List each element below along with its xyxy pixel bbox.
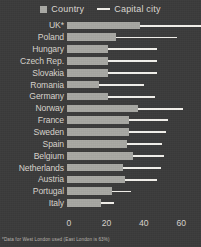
- category-label: France: [0, 116, 67, 125]
- bar-country: [67, 93, 108, 101]
- bar-country: [67, 33, 116, 41]
- chart-row: UK*: [0, 20, 201, 31]
- chart-footnote: *Data for West London used (East London …: [2, 237, 199, 242]
- bar-country: [67, 140, 127, 148]
- chart-row: Italy: [0, 198, 201, 209]
- bar-country: [67, 176, 125, 184]
- line-capital-city: [108, 96, 155, 98]
- x-axis-tick-label: 20: [102, 219, 112, 228]
- bar-country: [67, 187, 112, 195]
- category-label: Austria: [0, 175, 67, 184]
- line-capital-city: [138, 108, 183, 110]
- bar-country: [67, 22, 140, 30]
- category-label: Czech Rep.: [0, 57, 67, 66]
- line-capital-city: [112, 191, 131, 193]
- row-bars: [67, 139, 201, 150]
- row-bars: [67, 67, 201, 78]
- bar-country: [67, 164, 123, 172]
- chart-row: Belgium: [0, 150, 201, 161]
- line-capital-city: [133, 155, 165, 157]
- chart-row: Romania: [0, 79, 201, 90]
- chart-row: Czech Rep.: [0, 56, 201, 67]
- chart-row: France: [0, 115, 201, 126]
- bar-country: [67, 69, 108, 77]
- row-bars: [67, 162, 201, 173]
- line-capital-city: [101, 202, 114, 204]
- row-bars: [67, 174, 201, 185]
- line-capital-city: [129, 119, 168, 121]
- line-capital-city: [125, 179, 157, 181]
- bar-chart: Country Capital city UK*PolandHungaryCze…: [0, 0, 201, 247]
- bar-country: [67, 116, 129, 124]
- line-capital-city: [129, 131, 166, 133]
- chart-row: Poland: [0, 32, 201, 43]
- x-axis: 0204060: [0, 219, 201, 231]
- row-bars: [67, 198, 201, 209]
- line-capital-city: [108, 60, 157, 62]
- category-label: Portugal: [0, 187, 67, 196]
- category-label: Spain: [0, 140, 67, 149]
- x-axis-tick-label: 0: [67, 219, 72, 228]
- chart-row: Portugal: [0, 186, 201, 197]
- row-bars: [67, 79, 201, 90]
- category-label: Romania: [0, 81, 67, 90]
- bar-country: [67, 105, 138, 113]
- line-capital-city: [116, 37, 178, 39]
- row-bars: [67, 150, 201, 161]
- category-label: UK*: [0, 21, 67, 30]
- bar-country: [67, 199, 101, 207]
- legend-swatch-country-icon: [40, 6, 47, 13]
- chart-row: Sweden: [0, 127, 201, 138]
- row-bars: [67, 127, 201, 138]
- legend-item-country: Country: [40, 4, 84, 14]
- row-bars: [67, 103, 201, 114]
- row-bars: [67, 32, 201, 43]
- chart-legend: Country Capital city: [0, 4, 201, 14]
- row-bars: [67, 91, 201, 102]
- line-capital-city: [140, 25, 201, 27]
- category-label: Poland: [0, 33, 67, 42]
- bar-country: [67, 152, 133, 160]
- line-capital-city: [99, 84, 144, 86]
- category-label: Netherlands: [0, 164, 67, 173]
- row-bars: [67, 115, 201, 126]
- x-axis-tick-label: 40: [139, 219, 149, 228]
- line-capital-city: [108, 72, 157, 74]
- legend-line-capital-city-icon: [97, 8, 110, 10]
- line-capital-city: [123, 167, 160, 169]
- legend-label-capital-city: Capital city: [114, 4, 160, 14]
- legend-item-capital-city: Capital city: [97, 4, 160, 14]
- x-axis-tick-label: 60: [177, 219, 187, 228]
- chart-row: Netherlands: [0, 162, 201, 173]
- bar-country: [67, 128, 129, 136]
- bar-country: [67, 45, 108, 53]
- row-bars: [67, 186, 201, 197]
- chart-row: Hungary: [0, 44, 201, 55]
- category-label: Belgium: [0, 152, 67, 161]
- line-capital-city: [127, 143, 163, 145]
- row-bars: [67, 20, 201, 31]
- category-label: Norway: [0, 104, 67, 113]
- category-label: Italy: [0, 199, 67, 208]
- plot-area: UK*PolandHungaryCzech Rep.SlovakiaRomani…: [0, 20, 201, 218]
- bar-country: [67, 81, 99, 89]
- category-label: Germany: [0, 92, 67, 101]
- row-bars: [67, 44, 201, 55]
- chart-row: Austria: [0, 174, 201, 185]
- bar-country: [67, 57, 108, 65]
- line-capital-city: [108, 48, 157, 50]
- category-label: Sweden: [0, 128, 67, 137]
- chart-row: Norway: [0, 103, 201, 114]
- row-bars: [67, 56, 201, 67]
- category-label: Hungary: [0, 45, 67, 54]
- chart-row: Slovakia: [0, 67, 201, 78]
- chart-row: Germany: [0, 91, 201, 102]
- category-label: Slovakia: [0, 69, 67, 78]
- legend-label-country: Country: [51, 4, 84, 14]
- chart-row: Spain: [0, 139, 201, 150]
